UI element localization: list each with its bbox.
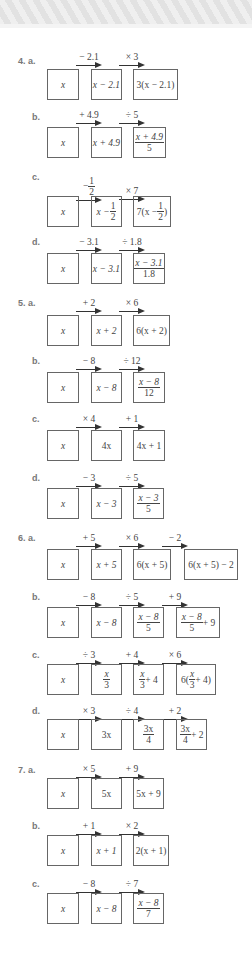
question-label-4a: 4. a.: [18, 56, 36, 66]
box-input: x: [47, 719, 79, 750]
box-step-2: 6(x + 5): [133, 549, 171, 580]
box-step-3: 6(x3+ 4): [176, 664, 216, 695]
operation-4a-2: × 3: [119, 52, 145, 68]
box-input: x: [47, 315, 79, 346]
question-label-6c: c.: [32, 650, 40, 660]
box-input: x: [47, 372, 79, 403]
operation-5a-2: × 6: [119, 298, 145, 314]
arrow-icon: [76, 62, 102, 68]
box-step-1: x + 1: [91, 835, 122, 866]
box-step-2: x − 812: [133, 372, 165, 403]
arrow-icon: [119, 308, 145, 314]
box-step-2: 4x + 1: [133, 430, 165, 461]
box-input: x: [47, 69, 79, 100]
operation-5c-2: + 1: [119, 414, 145, 430]
box-step-2: x − 87: [133, 893, 164, 924]
arrow-icon: [76, 120, 102, 126]
box-step-2: 3x4: [133, 719, 164, 750]
decorative-header-pattern: [0, 0, 252, 28]
operation-4b-2: ÷ 5: [119, 110, 145, 126]
operation-6b-3: + 9: [162, 592, 188, 608]
question-label-5b: b.: [32, 356, 40, 366]
arrow-icon: [119, 120, 145, 126]
question-label-5d: d.: [32, 473, 40, 483]
question-label-6b: b.: [32, 592, 40, 602]
operation-6b-1: − 8: [76, 592, 102, 608]
box-step-3: 3x4+ 2: [176, 719, 207, 750]
box-step-1: x −12: [91, 196, 122, 227]
box-input: x: [47, 196, 79, 227]
box-input: x: [47, 835, 79, 866]
operation-5b-1: − 8: [76, 356, 102, 372]
box-step-1: x − 8: [91, 607, 122, 638]
box-step-1: x − 8: [91, 372, 122, 403]
box-step-1: x + 5: [91, 549, 122, 580]
box-input: x: [47, 253, 79, 284]
box-step-1: x + 2: [91, 315, 122, 346]
box-input: x: [47, 664, 79, 695]
question-label-4d: d.: [32, 237, 40, 247]
question-label-7b: b.: [32, 821, 40, 831]
box-step-2: x − 35: [133, 488, 164, 519]
box-step-2: 5x + 9: [133, 778, 164, 809]
question-label-4b: b.: [32, 112, 40, 122]
box-step-2: x3+ 4: [133, 664, 164, 695]
question-label-7a: 7. a.: [18, 765, 36, 775]
operation-6b-2: ÷ 5: [119, 592, 145, 608]
box-step-1: x3: [91, 664, 122, 695]
box-step-2: 6(x + 2): [133, 315, 170, 346]
operation-5d-1: − 3: [76, 473, 102, 489]
question-label-6d: d.: [32, 706, 40, 716]
operation-4a-1: − 2.1: [76, 52, 102, 68]
box-step-2: x + 4.95: [133, 127, 166, 158]
operation-6a-2: × 6: [119, 533, 145, 549]
box-input: x: [47, 893, 79, 924]
box-step-2: 2(x + 1): [133, 835, 169, 866]
operation-4b-1: + 4.9: [76, 110, 102, 126]
box-input: x: [47, 778, 79, 809]
box-step-1: 3x: [91, 719, 122, 750]
box-input: x: [47, 607, 79, 638]
box-step-3: x − 85+ 9: [176, 607, 220, 638]
box-step-1: x − 3.1: [91, 253, 122, 284]
box-input: x: [47, 488, 79, 519]
operation-4d-1: − 3.1: [76, 237, 102, 253]
box-input: x: [47, 127, 79, 158]
box-step-1: x − 2.1: [91, 69, 122, 100]
operation-6a-3: − 2: [162, 533, 188, 549]
operation-5b-2: ÷ 12: [119, 356, 145, 372]
operation-5d-2: ÷ 5: [119, 473, 145, 489]
operation-6a-1: + 5: [76, 533, 102, 549]
box-step-1: 5x: [91, 778, 122, 809]
arrow-icon: [119, 62, 145, 68]
box-step-2: 7(x −12): [133, 196, 171, 227]
box-step-3: 6(x + 5) − 2: [184, 549, 238, 580]
box-input: x: [47, 549, 79, 580]
operation-5c-1: × 4: [76, 414, 102, 430]
question-label-5a: 5. a.: [18, 298, 36, 308]
question-label-6a: 6. a.: [18, 533, 36, 543]
question-label-5c: c.: [32, 414, 40, 424]
box-step-1: x − 3: [91, 488, 122, 519]
arrow-icon: [76, 308, 102, 314]
box-step-2: x − 3.11.8: [133, 253, 165, 284]
question-label-7c: c.: [32, 879, 40, 889]
operation-5a-1: + 2: [76, 298, 102, 314]
box-input: x: [47, 430, 79, 461]
operation-4d-2: ÷ 1.8: [119, 237, 145, 253]
box-step-1: x + 4.9: [91, 127, 122, 158]
question-label-4c: c.: [32, 172, 40, 182]
box-step-1: x − 8: [91, 893, 122, 924]
box-step-1: 4x: [91, 430, 122, 461]
box-step-2: 3(x − 2.1): [133, 69, 178, 100]
box-step-2: x − 85: [133, 607, 164, 638]
